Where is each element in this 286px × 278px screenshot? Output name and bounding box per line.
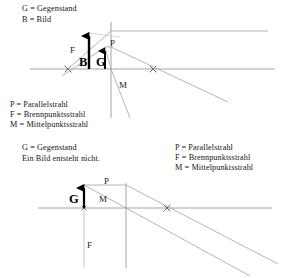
ray-diagram-canvas — [0, 0, 286, 278]
top-caption-bild: B = Bild — [22, 15, 51, 25]
bottom-ray-label-parallel: P — [104, 176, 109, 187]
top-legend-center: M = Mittelpunktsstrahl — [10, 120, 88, 130]
top-image-label-b: B — [79, 55, 87, 70]
bottom-caption-no-image: Ein Bild entsteht nicht. — [22, 154, 100, 164]
top-ray-label-parallel: P — [110, 38, 115, 49]
top-object-label-g: G — [96, 55, 106, 70]
top-ray-label-center: M — [119, 80, 127, 91]
top-caption-gegenstand: G = Gegenstand — [22, 4, 77, 14]
center-ray-extended-top — [111, 69, 130, 118]
bottom-ray-label-center: M — [99, 194, 107, 205]
bottom-object-label-g: G — [69, 192, 79, 207]
parallel-ray-refracted-top — [111, 47, 228, 102]
top-legend-focal: F = Brennpunktsstrahl — [10, 110, 85, 120]
parallel-ray-refracted-bottom — [126, 185, 278, 264]
bottom-legend-center: M = Mittelpunktsstrahl — [175, 163, 253, 173]
bottom-ray-label-focal: F — [87, 240, 92, 251]
figure-root: G = Gegenstand B = Bild P F M B G P = Pa… — [0, 0, 286, 278]
top-ray-label-focal: F — [70, 45, 75, 56]
bottom-legend-parallel: P = Parallelstrahl — [175, 143, 233, 153]
bottom-legend-focal: F = Brennpunktsstrahl — [175, 153, 250, 163]
top-legend-parallel: P = Parallelstrahl — [10, 100, 68, 110]
center-ray-extended-bottom — [126, 208, 250, 276]
bottom-caption-gegenstand: G = Gegenstand — [22, 143, 77, 153]
